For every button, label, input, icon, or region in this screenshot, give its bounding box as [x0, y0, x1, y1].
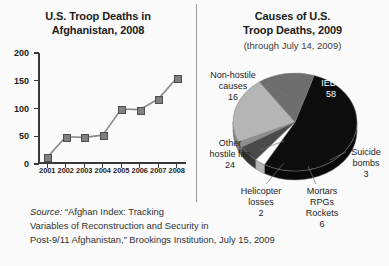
y-tick — [34, 163, 39, 164]
line-chart-title-line1: U.S. Troop Deaths in — [0, 10, 196, 24]
x-tick-label: 2008 — [169, 166, 185, 175]
line-chart-panel: U.S. Troop Deaths in Afghanistan, 2008 0… — [0, 0, 196, 200]
data-point-marker — [44, 154, 52, 162]
pie-label-other-hostile-l2: hostile fire — [196, 149, 264, 160]
y-tick-label: 200 — [14, 48, 29, 58]
line-chart-title-line2: Afghanistan, 2008 — [0, 24, 196, 38]
pie-label-suicide-l2: bombs — [344, 158, 388, 169]
line-chart-plot-area: 0501001502002001200220032004200520062007… — [38, 53, 186, 164]
x-tick-label: 2004 — [95, 166, 111, 175]
data-point-marker — [100, 132, 108, 140]
data-point-marker — [137, 107, 145, 115]
pie-label-non-hostile-l1: Non-hostile — [200, 70, 266, 81]
pie-label-ieds-value: 58 — [300, 89, 362, 100]
source-text-line1: “Afghan Index: Tracking — [62, 206, 164, 217]
y-tick-label: 50 — [19, 131, 29, 141]
x-tick-label: 2003 — [76, 166, 92, 175]
pie-graphic — [196, 0, 389, 214]
line-series — [38, 53, 186, 164]
line-chart-title: U.S. Troop Deaths in Afghanistan, 2008 — [0, 10, 196, 37]
pie-label-other-hostile-l1: Other — [196, 138, 264, 149]
y-tick — [34, 52, 39, 53]
source-text-line2: Variables of Reconstruction and Security… — [30, 220, 209, 231]
y-tick-label: 150 — [14, 76, 29, 86]
infographic-root: U.S. Troop Deaths in Afghanistan, 2008 0… — [0, 0, 389, 266]
y-tick — [34, 108, 39, 109]
pie-label-non-hostile-causes: Non-hostile causes 16 — [200, 70, 266, 103]
source-label: Source: — [30, 206, 62, 217]
pie-label-non-hostile-l2: causes — [200, 81, 266, 92]
pie-chart-panel: Causes of U.S. Troop Deaths, 2009 (throu… — [196, 0, 389, 214]
pie-label-ieds: IEDs 58 — [300, 78, 362, 100]
data-point-marker — [155, 96, 163, 104]
data-point-marker — [174, 75, 182, 83]
pie-label-helicopter-l1: Helicopter — [230, 186, 292, 197]
pie-label-other-hostile-fire: Other hostile fire 24 — [196, 138, 264, 171]
x-tick-label: 2002 — [58, 166, 74, 175]
x-tick-label: 2007 — [150, 166, 166, 175]
y-tick — [34, 136, 39, 137]
pie-label-suicide-l1: Suicide — [344, 147, 388, 158]
x-tick-label: 2006 — [132, 166, 148, 175]
data-point-marker — [81, 134, 89, 142]
pie-label-mortars-l1: Mortars — [296, 186, 348, 197]
y-tick-label: 0 — [24, 159, 29, 169]
pie-label-suicide-value: 3 — [344, 169, 388, 180]
x-tick-label: 2001 — [39, 166, 55, 175]
data-point-marker — [118, 106, 126, 114]
y-tick-label: 100 — [14, 104, 29, 114]
pie-label-ieds-name: IEDs — [300, 78, 362, 89]
pie-label-suicide-bombs: Suicide bombs 3 — [344, 147, 388, 180]
data-point-marker — [63, 134, 71, 142]
source-text-line3: Post-9/11 Afghanistan,” Brookings Instit… — [30, 234, 275, 245]
pie-label-non-hostile-value: 16 — [200, 92, 266, 103]
x-tick-label: 2005 — [113, 166, 129, 175]
pie-label-other-hostile-value: 24 — [196, 160, 264, 171]
source-note: Source: “Afghan Index: Tracking Variable… — [30, 205, 360, 247]
y-tick — [34, 80, 39, 81]
